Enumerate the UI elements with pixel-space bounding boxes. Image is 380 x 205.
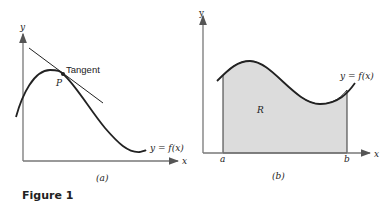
panel-b: y x R y = f(x) a b (b)	[198, 8, 379, 181]
tangent-line	[29, 48, 103, 103]
point-p-label: P	[55, 78, 63, 88]
region-r-label: R	[256, 105, 264, 115]
panel-a-curve	[16, 70, 146, 152]
panel-b-label: (b)	[272, 171, 285, 181]
figure-canvas: y x P Tangent y = f(x) (a) y x R y = f(x…	[0, 0, 380, 205]
point-p-marker	[61, 72, 65, 76]
panel-a: y x P Tangent y = f(x) (a)	[16, 22, 187, 183]
figure-caption: Figure 1	[22, 189, 73, 202]
panel-a-x-axis-label: x	[182, 156, 187, 166]
panel-a-label: (a)	[96, 173, 109, 183]
region-r	[223, 61, 347, 153]
panel-b-curve-label: y = f(x)	[339, 71, 374, 81]
panel-b-y-axis-label: y	[198, 8, 205, 18]
panel-a-curve-label: y = f(x)	[149, 143, 184, 153]
upper-bound-b-label: b	[344, 154, 350, 164]
panel-a-y-axis-label: y	[19, 22, 26, 32]
panel-b-x-axis-label: x	[374, 149, 379, 159]
tangent-label: Tangent	[66, 64, 100, 75]
lower-bound-a-label: a	[220, 154, 225, 164]
